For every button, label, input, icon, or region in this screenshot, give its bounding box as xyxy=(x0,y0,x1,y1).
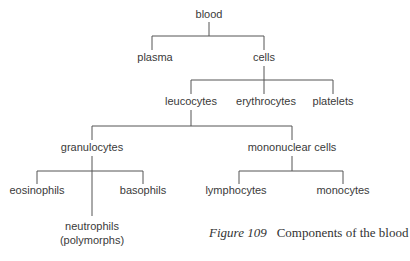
node-erythrocytes: erythrocytes xyxy=(236,95,296,108)
node-blood: blood xyxy=(196,8,223,21)
node-plasma: plasma xyxy=(137,51,172,64)
figure-caption: Figure 109Components of the blood xyxy=(209,225,408,241)
tree-connectors xyxy=(0,0,410,261)
node-basophils: basophils xyxy=(120,184,166,197)
node-eosinophils: eosinophils xyxy=(9,184,64,197)
node-mononuclear-cells: mononuclear cells xyxy=(248,141,337,154)
node-monocytes: monocytes xyxy=(316,184,369,197)
node-neutrophils: neutrophils xyxy=(65,220,119,233)
figure-label: Figure 109 xyxy=(209,225,267,240)
blood-components-diagram: blood plasma cells leucocytes erythrocyt… xyxy=(0,0,410,261)
node-neutrophils-alias: (polymorphs) xyxy=(60,234,124,247)
node-leucocytes: leucocytes xyxy=(165,95,217,108)
node-lymphocytes: lymphocytes xyxy=(205,184,266,197)
node-granulocytes: granulocytes xyxy=(61,141,123,154)
node-platelets: platelets xyxy=(313,95,354,108)
figure-title: Components of the blood xyxy=(277,225,409,240)
node-cells: cells xyxy=(253,51,275,64)
